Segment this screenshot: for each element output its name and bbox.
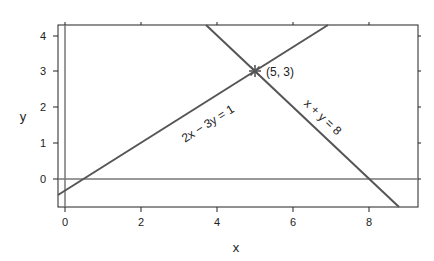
- y-axis-label: y: [20, 109, 27, 124]
- x-tick-label: 0: [62, 216, 68, 228]
- y-ticks: [53, 36, 58, 179]
- intersection-label: (5, 3): [266, 65, 294, 79]
- y-tick-label: 0: [40, 173, 46, 185]
- x-tick-label: 8: [366, 216, 372, 228]
- chart: 0 2 4 6 8 0 1 2 3 4 x y (5, 3) 2x − 3y =…: [0, 0, 434, 261]
- intersection-marker-icon: [249, 65, 261, 77]
- y-tick-label: 1: [40, 137, 46, 149]
- line-2x-minus-3y-eq-1: [58, 25, 328, 195]
- y-tick-label: 4: [40, 30, 46, 42]
- y-tick-label: 3: [40, 65, 46, 77]
- x-ticks: [65, 207, 369, 212]
- y-tick-label: 2: [40, 101, 46, 113]
- x-axis-label: x: [233, 240, 240, 255]
- line2-label: x + y = 8: [301, 96, 344, 138]
- x-tick-label: 4: [214, 216, 220, 228]
- line1-label: 2x − 3y = 1: [179, 102, 237, 146]
- x-tick-label: 6: [290, 216, 296, 228]
- x-tick-label: 2: [138, 216, 144, 228]
